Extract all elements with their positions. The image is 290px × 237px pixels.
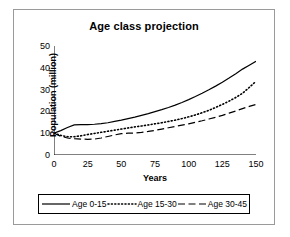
y-tick-label-0: 0	[45, 150, 50, 160]
legend-item-3[interactable]: Age 30-45	[177, 199, 247, 209]
legend-item-2[interactable]: Age 15-30	[107, 199, 177, 209]
legend-label-1: Age 0-15	[72, 199, 107, 209]
y-tick-label-40: 40	[40, 63, 50, 73]
series-line-1	[54, 61, 256, 133]
legend-item-1[interactable]: Age 0-15	[41, 199, 107, 209]
chart-title: Age class projection	[14, 20, 274, 32]
legend-label-3: Age 30-45	[208, 199, 247, 209]
legend-label-2: Age 15-30	[138, 199, 177, 209]
x-tick-label-50: 50	[116, 159, 126, 169]
series-line-3	[54, 104, 256, 139]
x-tick-label-25: 25	[83, 159, 93, 169]
chart-container: Age class projection Population (million…	[13, 9, 275, 225]
plot-area: Population (million) Years 01020304050 0…	[54, 46, 256, 155]
x-axis-title: Years	[54, 173, 256, 183]
y-tick-label-20: 20	[40, 106, 50, 116]
legend-swatch-dotted	[107, 199, 137, 209]
x-tick-label-125: 125	[215, 159, 230, 169]
y-tick-label-30: 30	[40, 85, 50, 95]
legend-swatch-solid	[41, 199, 71, 209]
chart-legend: Age 0-15Age 15-30Age 30-45	[38, 194, 250, 214]
x-tick-label-100: 100	[181, 159, 196, 169]
y-tick-label-50: 50	[40, 41, 50, 51]
x-tick-label-150: 150	[248, 159, 263, 169]
series-line-2	[54, 81, 256, 136]
y-tick-label-10: 10	[40, 128, 50, 138]
x-tick-label-0: 0	[51, 159, 56, 169]
legend-swatch-dashed	[177, 199, 207, 209]
series-plot	[54, 46, 256, 155]
x-tick-label-75: 75	[150, 159, 160, 169]
